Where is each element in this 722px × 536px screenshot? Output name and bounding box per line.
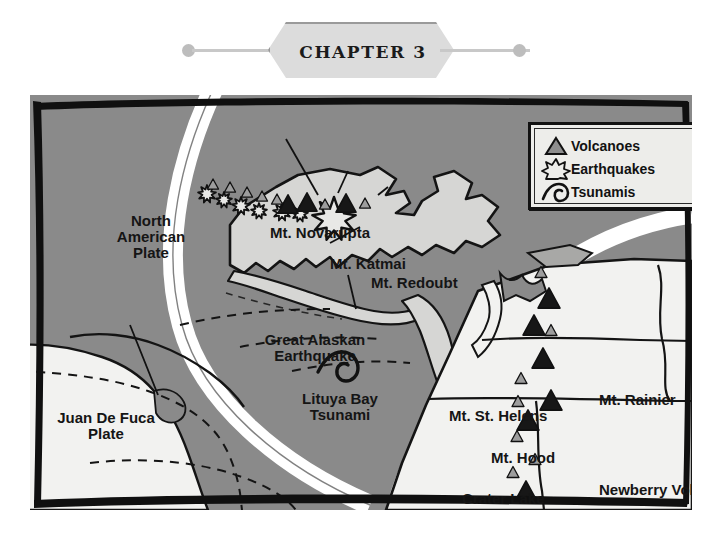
triangle-icon	[541, 135, 571, 157]
page-root: CHAPTER 3	[0, 0, 722, 536]
map-label-line: Mt. Redoubt	[371, 275, 521, 291]
map-label-line: Plate	[36, 426, 176, 442]
header-dot-right-icon	[513, 44, 526, 57]
legend-label-volcanoes: Volcanoes	[571, 138, 640, 154]
map-label-line: Juan De Fuca	[36, 410, 176, 426]
map-label-line: Crater Lake	[462, 491, 584, 507]
map-label-great-alaskan-earthquake: Great AlaskanEarthquake	[245, 332, 385, 364]
map-label-juan-de-fuca-plate: Juan De FucaPlate	[36, 410, 176, 442]
map-label-line: Mt. Katmai	[330, 256, 470, 272]
map-label-line: Lituya Bay	[286, 391, 394, 407]
map-label-line: Mt. Hood	[491, 450, 591, 466]
map-label-line: Great Alaskan	[245, 332, 385, 348]
chapter-title: CHAPTER 3	[299, 42, 426, 62]
map-label-mt-redoubt: Mt. Redoubt	[371, 275, 521, 291]
legend-row-volcanoes: Volcanoes	[541, 134, 687, 157]
map-label-newberry-volcano: Newberry Volcano	[599, 482, 692, 498]
map-label-mt-st-helens: Mt. St. Helens	[449, 408, 589, 424]
map-label-line: Mt. Novarupta	[270, 225, 430, 241]
map-label-line: Mt. St. Helens	[449, 408, 589, 424]
map-label-line: Mt. Rainier	[599, 392, 692, 408]
map-legend: Volcanoes Earthquakes	[528, 122, 692, 210]
map-label-lituya-bay-tsunami: Lituya BayTsunami	[286, 391, 394, 423]
map-label-line: North	[92, 213, 210, 229]
map-label-line: Newberry Volcano	[599, 482, 692, 498]
map-label-mt-novarupta: Mt. Novarupta	[270, 225, 430, 241]
map-label-north-american-plate: NorthAmericanPlate	[92, 213, 210, 261]
map-label-mt-hood: Mt. Hood	[491, 450, 591, 466]
legend-label-earthquakes: Earthquakes	[571, 161, 655, 177]
legend-row-earthquakes: Earthquakes	[541, 157, 687, 180]
map-label-mt-katmai: Mt. Katmai	[330, 256, 470, 272]
map-illustration: NorthAmericanPlateJuan De FucaPlatePacif…	[30, 95, 692, 510]
wave-icon	[541, 181, 571, 203]
map-label-line: Tsunami	[286, 407, 394, 423]
map-label-line: Plate	[92, 245, 210, 261]
chapter-banner: CHAPTER 3	[268, 22, 458, 82]
starburst-icon	[541, 158, 571, 180]
legend-label-tsunamis: Tsunamis	[571, 184, 635, 200]
map-label-line: American	[92, 229, 210, 245]
legend-inner-frame: Volcanoes Earthquakes	[534, 128, 692, 204]
map-label-crater-lake: Crater Lake	[462, 491, 584, 507]
map-label-line: Earthquake	[245, 348, 385, 364]
chapter-header: CHAPTER 3	[0, 22, 722, 78]
legend-row-tsunamis: Tsunamis	[541, 180, 687, 203]
map-label-mt-rainier: Mt. Rainier	[599, 392, 692, 408]
